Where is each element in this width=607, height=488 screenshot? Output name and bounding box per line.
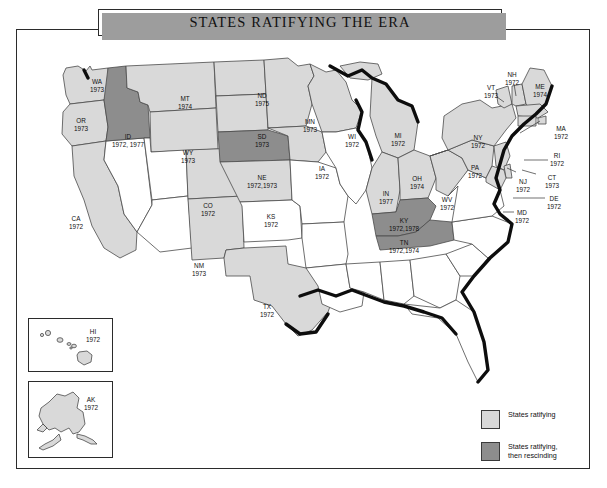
map-legend: States ratifying States ratifying, then … bbox=[481, 410, 581, 474]
svg-text:1974: 1974 bbox=[178, 103, 193, 110]
svg-text:1973: 1973 bbox=[90, 86, 105, 93]
svg-text:MI: MI bbox=[394, 132, 401, 139]
island-hawaii[interactable] bbox=[77, 351, 92, 365]
svg-text:TN: TN bbox=[400, 239, 409, 246]
state-VT[interactable] bbox=[496, 86, 512, 108]
legend-item-ratifying: States ratifying bbox=[481, 410, 581, 429]
title-rule-right bbox=[500, 29, 590, 30]
island-kauai[interactable] bbox=[45, 330, 50, 335]
svg-text:OH: OH bbox=[412, 175, 422, 182]
svg-text:1973: 1973 bbox=[181, 157, 196, 164]
state-label-CT: CT 1973 bbox=[545, 174, 560, 189]
state-label-DE: DE 1972 bbox=[547, 195, 562, 210]
svg-text:NH: NH bbox=[507, 71, 517, 78]
svg-text:1972: 1972 bbox=[86, 336, 101, 343]
svg-text:1973: 1973 bbox=[74, 125, 89, 132]
svg-text:1972: 1972 bbox=[201, 210, 216, 217]
svg-text:NM: NM bbox=[194, 262, 204, 269]
svg-text:NY: NY bbox=[474, 134, 484, 141]
svg-text:1974: 1974 bbox=[410, 183, 425, 190]
svg-text:1975: 1975 bbox=[255, 100, 270, 107]
svg-text:1972,1973: 1972,1973 bbox=[247, 182, 278, 189]
svg-text:CO: CO bbox=[203, 202, 213, 209]
svg-text:HI: HI bbox=[90, 328, 97, 335]
era-ratification-map-figure: STATES RATIFYING THE ERA bbox=[0, 0, 607, 488]
state-label-MN: MN 1973 bbox=[303, 118, 318, 133]
map-title-plaque: STATES RATIFYING THE ERA bbox=[98, 9, 502, 36]
svg-text:MA: MA bbox=[556, 125, 566, 132]
svg-text:WV: WV bbox=[442, 196, 453, 203]
state-WY[interactable] bbox=[150, 108, 218, 152]
svg-text:1972,1974: 1972,1974 bbox=[389, 247, 420, 254]
svg-text:CA: CA bbox=[72, 215, 82, 222]
svg-text:1972: 1972 bbox=[315, 173, 330, 180]
state-AR[interactable] bbox=[302, 222, 348, 268]
svg-text:1972: 1972 bbox=[345, 141, 360, 148]
state-label-NM: NM 1973 bbox=[192, 262, 207, 277]
svg-text:1973: 1973 bbox=[255, 141, 270, 148]
legend-label-rescinding-line2: then rescinding bbox=[508, 452, 558, 461]
state-ND[interactable] bbox=[214, 60, 266, 96]
svg-text:1972: 1972 bbox=[440, 204, 455, 211]
svg-text:1973: 1973 bbox=[192, 270, 207, 277]
svg-text:MN: MN bbox=[305, 118, 315, 125]
alaska-inset: AK 1972 bbox=[28, 381, 113, 458]
island-molokai[interactable] bbox=[67, 343, 71, 346]
island-niihau[interactable] bbox=[40, 333, 43, 336]
island-oahu[interactable] bbox=[57, 338, 63, 343]
svg-text:1972: 1972 bbox=[391, 140, 406, 147]
svg-text:1973: 1973 bbox=[303, 126, 318, 133]
svg-text:1977: 1977 bbox=[379, 198, 394, 205]
title-rule-left bbox=[16, 29, 100, 30]
svg-text:1972: 1972 bbox=[468, 172, 483, 179]
svg-text:1972: 1972 bbox=[471, 142, 486, 149]
state-label-RI: RI 1972 bbox=[550, 152, 565, 167]
leader-line-CT bbox=[522, 170, 536, 174]
svg-text:1972: 1972 bbox=[550, 160, 565, 167]
state-label-MA: MA 1972 bbox=[554, 125, 569, 140]
svg-text:NJ: NJ bbox=[519, 178, 527, 185]
svg-text:1972: 1972 bbox=[69, 223, 84, 230]
svg-text:1972: 1972 bbox=[547, 203, 562, 210]
svg-text:TX: TX bbox=[263, 303, 272, 310]
svg-text:CT: CT bbox=[548, 174, 557, 181]
svg-text:1974: 1974 bbox=[533, 91, 548, 98]
hawaii-inset: HI 1972 bbox=[28, 318, 113, 372]
svg-text:ME: ME bbox=[535, 83, 545, 90]
svg-text:DE: DE bbox=[550, 195, 559, 202]
svg-text:1973: 1973 bbox=[545, 182, 560, 189]
legend-label-rescinding: States ratifying, then rescinding bbox=[508, 442, 558, 460]
state-AL[interactable] bbox=[380, 260, 414, 304]
legend-swatch-ratifying bbox=[481, 410, 500, 429]
alaska-inset-map: AK 1972 bbox=[29, 382, 112, 457]
svg-text:1972: 1972 bbox=[260, 311, 275, 318]
svg-text:1972: 1972 bbox=[505, 79, 520, 86]
svg-text:AK: AK bbox=[87, 396, 96, 403]
svg-text:KS: KS bbox=[267, 213, 276, 220]
svg-text:WA: WA bbox=[92, 78, 103, 85]
svg-text:1972: 1972 bbox=[515, 217, 530, 224]
svg-text:RI: RI bbox=[554, 152, 561, 159]
svg-text:IA: IA bbox=[319, 165, 326, 172]
svg-text:VT: VT bbox=[487, 84, 495, 91]
svg-text:1972,1978: 1972,1978 bbox=[389, 225, 420, 232]
hawaii-inset-map: HI 1972 bbox=[29, 319, 112, 371]
svg-text:IN: IN bbox=[383, 190, 390, 197]
svg-text:MD: MD bbox=[517, 209, 527, 216]
state-label-WV: WV 1972 bbox=[440, 196, 455, 211]
svg-text:WI: WI bbox=[348, 133, 356, 140]
svg-text:ID: ID bbox=[125, 133, 132, 140]
state-label-NH: NH 1972 bbox=[505, 71, 520, 86]
legend-label-ratifying: States ratifying bbox=[508, 410, 556, 420]
legend-swatch-rescinding bbox=[481, 442, 500, 461]
svg-text:1972: 1972 bbox=[264, 221, 279, 228]
svg-text:1972: 1972 bbox=[554, 133, 569, 140]
state-label-CA: CA 1972 bbox=[69, 215, 84, 230]
svg-text:SD: SD bbox=[258, 133, 267, 140]
legend-item-rescinding: States ratifying, then rescinding bbox=[481, 442, 581, 461]
island-lanai[interactable] bbox=[70, 347, 73, 349]
svg-text:WY: WY bbox=[183, 149, 194, 156]
svg-text:PA: PA bbox=[471, 164, 480, 171]
state-label-NJ: NJ 1972 bbox=[516, 178, 531, 193]
svg-text:MT: MT bbox=[180, 95, 189, 102]
